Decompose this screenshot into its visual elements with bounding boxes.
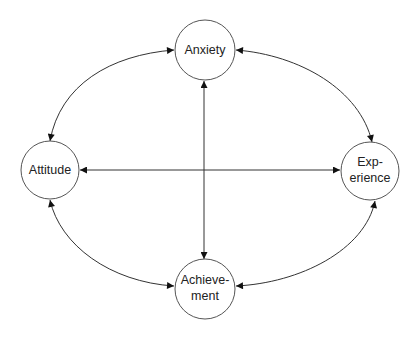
node-experience: Exp- erience: [341, 142, 399, 200]
node-achievement-label-line1: Achieve-: [181, 273, 230, 287]
node-achievement-label-line2: ment: [191, 289, 219, 303]
node-attitude-label: Attitude: [29, 163, 71, 177]
node-achievement: Achieve- ment: [175, 259, 235, 319]
edge-attitude-achievement: [50, 200, 174, 286]
node-experience-label-line1: Exp-: [357, 155, 383, 169]
relationship-diagram: Anxiety Attitude Exp- erience Achieve- m…: [0, 0, 418, 337]
edge-anxiety-experience: [236, 50, 372, 142]
node-anxiety-label: Anxiety: [185, 43, 227, 57]
node-anxiety: Anxiety: [175, 20, 235, 80]
node-experience-label-line2: erience: [350, 171, 391, 185]
edge-experience-achievement: [236, 201, 375, 286]
edge-anxiety-attitude: [50, 50, 174, 141]
node-attitude: Attitude: [21, 141, 79, 199]
